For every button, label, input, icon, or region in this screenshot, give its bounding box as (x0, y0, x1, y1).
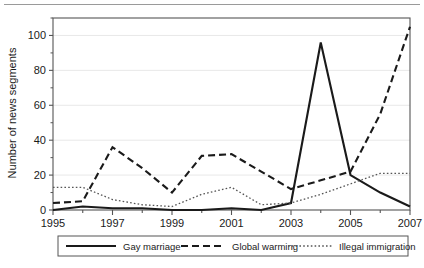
y-tick-label: 60 (34, 99, 46, 111)
y-axis-ticks: 020406080100 (28, 18, 53, 216)
figure-container: 020406080100 199519971999200120032005200… (0, 0, 424, 268)
header-divider (4, 4, 420, 5)
legend-label-illegal-immigration: Illegal immigration (339, 241, 416, 252)
plot-frame (53, 18, 410, 210)
y-tick-label: 80 (34, 64, 46, 76)
y-tick-label: 100 (28, 29, 46, 41)
data-series (53, 27, 410, 210)
x-tick-label: 1997 (100, 217, 124, 229)
x-tick-label: 1999 (160, 217, 184, 229)
y-tick-label: 20 (34, 169, 46, 181)
x-tick-label: 1995 (41, 217, 65, 229)
chart-legend: Gay marriageGlobal warmingIllegal immigr… (58, 236, 416, 256)
line-chart: 020406080100 199519971999200120032005200… (0, 0, 424, 268)
series-line-global-warming (53, 27, 410, 203)
x-tick-label: 2005 (338, 217, 362, 229)
x-tick-label: 2001 (219, 217, 243, 229)
x-tick-label: 2003 (279, 217, 303, 229)
plot-border (53, 18, 410, 210)
y-tick-label: 0 (40, 204, 46, 216)
y-tick-label: 40 (34, 134, 46, 146)
legend-label-gay-marriage: Gay marriage (123, 241, 181, 252)
x-tick-label: 2007 (398, 217, 422, 229)
x-axis-ticks: 1995199719992001200320052007 (41, 210, 422, 229)
y-axis-title: Number of news segments (6, 47, 18, 178)
series-line-gay-marriage (53, 42, 410, 210)
